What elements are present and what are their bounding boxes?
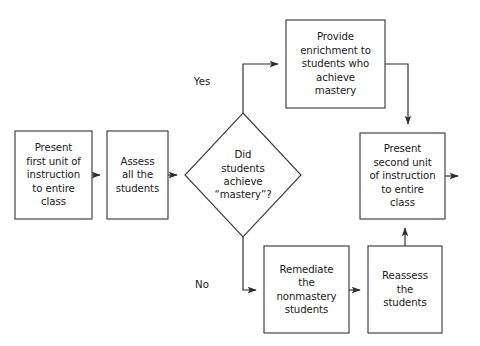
node-assess-all-students — [107, 131, 168, 219]
edge-decision-yes-to-enrichment — [243, 64, 278, 113]
node-remediate-nonmastery — [264, 246, 349, 333]
node-present-first-unit — [15, 131, 92, 219]
node-reassess-students — [368, 246, 442, 333]
node-provide-enrichment — [286, 20, 385, 108]
flowchart-graphics — [0, 0, 480, 346]
no-branch-label: No — [187, 279, 217, 291]
node-present-second-unit — [360, 133, 445, 219]
edge-decision-no-to-remediate — [243, 237, 256, 290]
flowchart-canvas: Present first unit of instruction to ent… — [0, 0, 480, 346]
edge-enrichment-to-second-unit — [385, 64, 408, 124]
yes-branch-label: Yes — [187, 76, 217, 88]
node-mastery-decision — [185, 113, 301, 237]
